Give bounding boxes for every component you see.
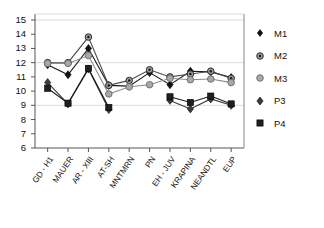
data-point-P4: [85, 65, 91, 71]
y-axis-tick-label: 14: [8, 28, 26, 39]
y-axis-tick-label: 9: [8, 99, 26, 110]
y-axis-tick-label: 6: [8, 142, 26, 153]
data-point-M2-dot: [210, 70, 212, 72]
y-axis-tick-label: 8: [8, 114, 26, 125]
legend-marker-diamond-icon: [252, 26, 268, 40]
legend-marker-square-icon: [252, 116, 268, 130]
data-point-M2-dot: [189, 73, 191, 75]
legend-label: M1: [274, 28, 287, 39]
data-point-P4: [208, 93, 214, 99]
line-chart: 6789101112131415GD - H1MAUERAR - XIIIAT-…: [0, 0, 324, 228]
legend-item-P3[interactable]: P3: [252, 90, 322, 113]
chart-legend: M1M2M3P3P4: [252, 22, 322, 135]
data-point-M3: [228, 79, 235, 86]
data-point-P4: [65, 100, 71, 106]
legend-item-M1[interactable]: M1: [252, 22, 322, 45]
y-axis-tick-label: 15: [8, 14, 26, 25]
y-axis-tick-label: 10: [8, 85, 26, 96]
data-point-P4: [187, 99, 193, 105]
data-point-M3: [44, 60, 51, 67]
data-point-M3: [167, 75, 174, 82]
legend-label: M2: [274, 50, 287, 61]
data-point-P3: [187, 105, 193, 113]
legend-label: M3: [274, 73, 287, 84]
legend-item-M2[interactable]: M2: [252, 45, 322, 68]
y-axis-tick-label: 7: [8, 128, 26, 139]
data-point-M3: [65, 60, 72, 67]
legend-item-P4[interactable]: P4: [252, 112, 322, 135]
legend-label: P4: [274, 118, 286, 129]
data-point-M3: [106, 91, 113, 98]
data-point-P4: [228, 101, 234, 107]
legend-marker-circle-dot-icon: [252, 49, 268, 63]
legend-marker-circle-icon: [252, 71, 268, 85]
legend-marker-diamond-gray-icon: [252, 94, 268, 108]
data-point-P4: [167, 94, 173, 100]
data-point-P4: [45, 85, 51, 91]
data-point-M3: [126, 84, 133, 91]
data-point-P4: [106, 104, 112, 110]
y-axis-tick-label: 12: [8, 57, 26, 68]
data-point-M2-dot: [148, 69, 150, 71]
data-point-M3: [187, 76, 194, 83]
data-point-M3: [207, 76, 214, 83]
legend-label: P3: [274, 95, 286, 106]
data-point-M3: [146, 81, 153, 88]
y-axis-tick-label: 11: [8, 71, 26, 82]
series-line-P4: [48, 68, 109, 107]
data-point-M2-dot: [128, 79, 130, 81]
data-point-M2-dot: [87, 36, 89, 38]
legend-item-M3[interactable]: M3: [252, 67, 322, 90]
data-point-M3: [85, 52, 92, 59]
y-axis-tick-label: 13: [8, 42, 26, 53]
data-point-M2-dot: [108, 84, 110, 86]
